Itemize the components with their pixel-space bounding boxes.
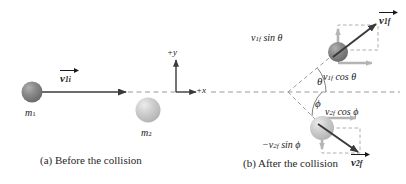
- label-v1i-sub: 1i: [65, 75, 71, 84]
- panel-a-graphics: [22, 60, 197, 123]
- label-v2f-sin-symbol: −v: [262, 139, 273, 150]
- axis-label-x: +x: [196, 86, 206, 95]
- collision-figure: v1i m1 m2 +y +x (a) Before the collision…: [0, 0, 406, 184]
- label-angle-phi: ϕ: [315, 98, 321, 109]
- label-v2f-cos-trig: cos ϕ: [335, 106, 359, 117]
- axis-label-y: +y: [167, 48, 177, 57]
- caption-panel-b: (b) After the collision: [243, 158, 338, 169]
- label-m2-sub: 2: [148, 130, 152, 138]
- label-v2f-sin-phi: −v2f sin ϕ: [262, 140, 301, 150]
- label-v2f: v2f: [351, 157, 362, 168]
- label-m1: m1: [25, 108, 36, 118]
- label-v1f-sin-trig: sin θ: [261, 32, 283, 43]
- panel-b-graphics: [211, 24, 400, 153]
- caption-panel-a: (a) Before the collision: [40, 155, 142, 166]
- vector-v1f-arrow: [333, 24, 376, 57]
- vector-overbar-v1f: [379, 10, 399, 15]
- ball-m2: [136, 98, 161, 123]
- label-v1f-sin-theta: v1f sin θ: [251, 33, 283, 43]
- label-angle-theta: θ: [317, 76, 322, 87]
- label-m2: m2: [141, 128, 152, 138]
- label-v2f-cos-phi: v2f cos ϕ: [325, 107, 358, 117]
- label-v1f-sub: 1f: [384, 17, 390, 26]
- label-v1f: v1f: [379, 15, 390, 26]
- label-v1f-cos-trig: cos θ: [333, 71, 356, 82]
- label-v1i: v1i: [60, 73, 71, 84]
- label-m1-sub: 1: [32, 110, 36, 118]
- vector-overbar-v2f: [351, 152, 371, 157]
- label-v2f-sin-trig: sin ϕ: [279, 139, 301, 150]
- label-v1f-cos-theta: v1f cos θ: [323, 72, 356, 82]
- vector-overbar-v1i: [60, 68, 80, 73]
- label-v2f-sub: 2f: [356, 159, 362, 168]
- ball-m1: [22, 82, 43, 103]
